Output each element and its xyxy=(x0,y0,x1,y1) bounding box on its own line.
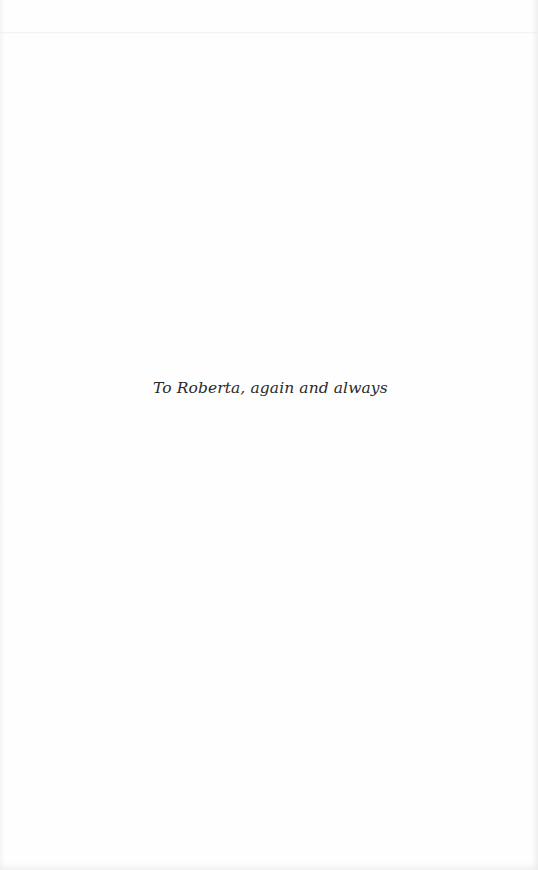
book-page: To Roberta, again and always xyxy=(0,0,538,870)
page-bottom-edge xyxy=(0,862,538,870)
page-top-edge xyxy=(0,32,538,34)
page-left-edge xyxy=(0,0,5,870)
page-right-edge xyxy=(532,0,538,870)
dedication-text: To Roberta, again and always xyxy=(153,379,388,397)
